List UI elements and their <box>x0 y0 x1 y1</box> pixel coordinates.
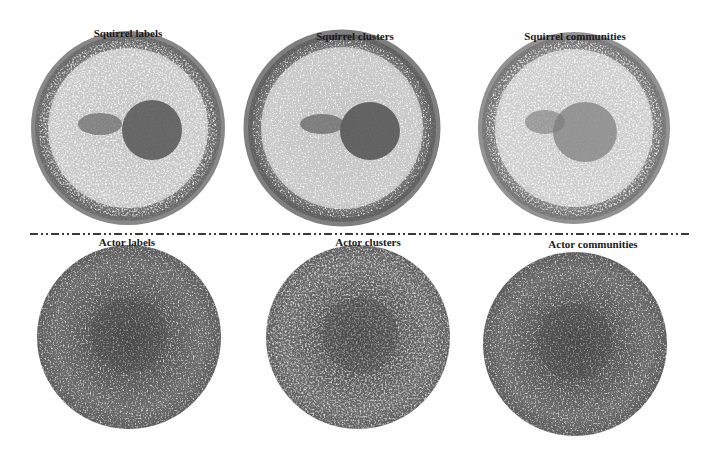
core-cluster <box>122 100 182 160</box>
tail-cluster <box>300 114 344 134</box>
panel-actor-labels <box>37 245 221 429</box>
figure-canvas <box>0 0 713 458</box>
panel-title-actor-labels: Actor labels <box>99 236 155 248</box>
tail-cluster <box>78 113 122 135</box>
panel-actor-clusters <box>266 245 450 429</box>
panel-squirrel-clusters <box>248 34 436 222</box>
tail-cluster <box>525 110 565 134</box>
panel-title-squirrel-labels: Squirrel labels <box>94 27 163 39</box>
panel-squirrel-communities <box>482 36 666 220</box>
core-cluster <box>340 102 400 160</box>
panel-title-actor-clusters: Actor clusters <box>335 236 400 248</box>
panel-title-squirrel-communities: Squirrel communities <box>524 30 626 42</box>
panel-title-squirrel-clusters: Squirrel clusters <box>316 30 394 42</box>
core-cluster <box>553 102 617 162</box>
panel-title-actor-communities: Actor communities <box>548 238 637 250</box>
panel-squirrel-labels <box>35 35 221 221</box>
panel-actor-communities <box>483 252 667 436</box>
